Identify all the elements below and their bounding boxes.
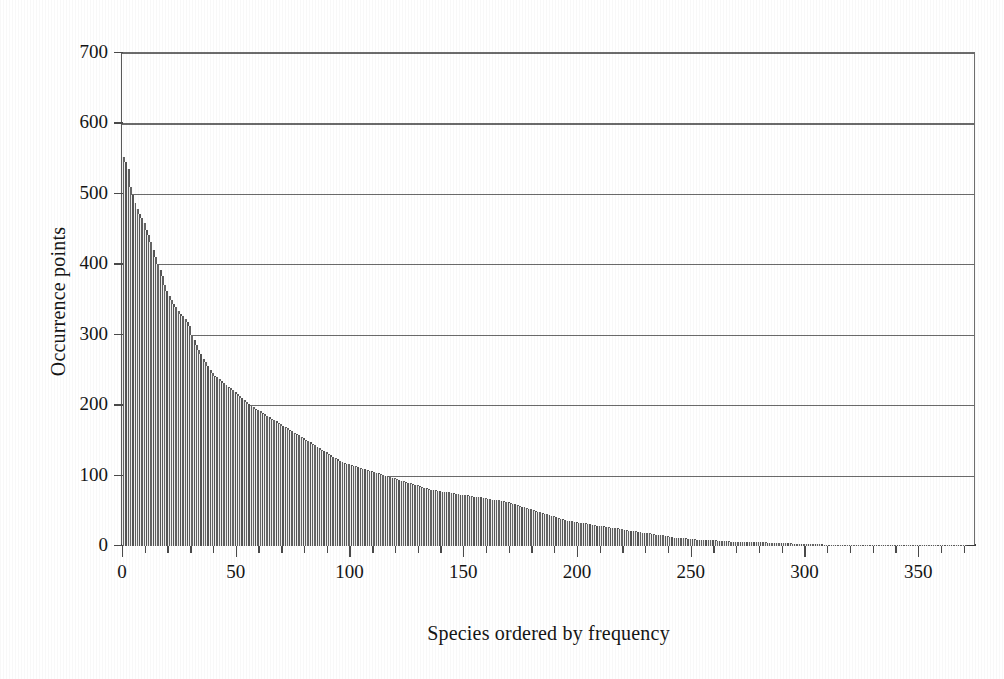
x-tick-mark-20	[167, 546, 168, 553]
x-axis-title: Species ordered by frequency	[122, 622, 975, 645]
x-tick-label-0: 0	[87, 561, 157, 583]
x-tick-label-50: 50	[201, 561, 271, 583]
bar-series	[122, 53, 975, 546]
x-tick-mark-160	[486, 546, 487, 553]
y-axis-title: Occurrence points	[47, 182, 70, 422]
x-tick-mark-360	[941, 546, 942, 553]
x-tick-mark-100	[349, 546, 350, 557]
x-tick-mark-280	[759, 546, 760, 553]
x-tick-mark-270	[736, 546, 737, 553]
x-tick-mark-170	[509, 546, 510, 553]
x-tick-mark-370	[964, 546, 965, 553]
y-tick-label-200: 200	[48, 394, 108, 413]
x-tick-mark-70	[281, 546, 282, 553]
x-tick-mark-140	[440, 546, 441, 553]
y-tick-label-700: 700	[48, 42, 108, 61]
x-tick-label-350: 350	[883, 561, 953, 583]
x-tick-mark-290	[782, 546, 783, 553]
x-tick-mark-110	[372, 546, 373, 553]
x-tick-mark-90	[327, 546, 328, 553]
x-tick-mark-180	[531, 546, 532, 553]
x-tick-mark-40	[213, 546, 214, 553]
x-tick-mark-250	[691, 546, 692, 557]
x-tick-label-150: 150	[428, 561, 498, 583]
x-tick-label-300: 300	[769, 561, 839, 583]
x-tick-mark-50	[236, 546, 237, 557]
x-tick-mark-190	[554, 546, 555, 553]
x-tick-mark-130	[418, 546, 419, 553]
y-tick-mark-400	[114, 263, 123, 264]
x-tick-label-100: 100	[314, 561, 384, 583]
x-tick-mark-10	[145, 546, 146, 553]
x-tick-mark-150	[463, 546, 464, 557]
x-tick-mark-220	[622, 546, 623, 553]
y-tick-label-300: 300	[48, 324, 108, 343]
x-tick-mark-310	[827, 546, 828, 553]
x-tick-mark-330	[873, 546, 874, 553]
x-tick-mark-210	[600, 546, 601, 553]
y-tick-mark-500	[114, 193, 123, 194]
x-tick-mark-0	[122, 546, 123, 557]
y-tick-mark-600	[114, 122, 123, 123]
y-tick-label-400: 400	[48, 253, 108, 272]
x-tick-mark-80	[304, 546, 305, 553]
x-tick-mark-340	[895, 546, 896, 553]
y-tick-label-500: 500	[48, 183, 108, 202]
x-tick-mark-200	[577, 546, 578, 557]
x-tick-label-200: 200	[542, 561, 612, 583]
x-tick-mark-350	[918, 546, 919, 557]
x-tick-mark-260	[713, 546, 714, 553]
x-tick-mark-240	[668, 546, 669, 553]
figure-canvas: Occurrence points 700 600 500 400 300 20…	[0, 0, 1004, 679]
y-tick-label-0: 0	[48, 535, 108, 554]
plot-area	[122, 52, 975, 545]
y-tick-mark-200	[114, 404, 123, 405]
x-tick-mark-300	[804, 546, 805, 557]
y-tick-label-600: 600	[48, 112, 108, 131]
x-tick-mark-120	[395, 546, 396, 553]
x-tick-label-250: 250	[656, 561, 726, 583]
x-tick-mark-60	[258, 546, 259, 553]
x-tick-mark-320	[850, 546, 851, 553]
x-tick-mark-230	[645, 546, 646, 553]
y-tick-mark-700	[114, 52, 123, 53]
y-tick-label-100: 100	[48, 465, 108, 484]
x-tick-mark-30	[190, 546, 191, 553]
y-tick-mark-300	[114, 334, 123, 335]
y-tick-mark-100	[114, 475, 123, 476]
